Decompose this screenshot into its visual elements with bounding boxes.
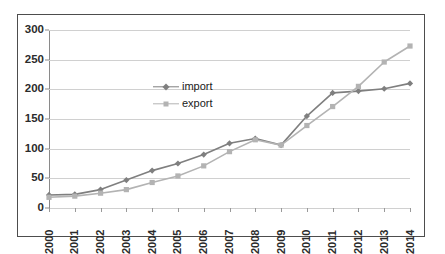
- legend-label-import: import: [182, 81, 213, 92]
- data-point-import-2006: [201, 152, 207, 158]
- x-tick-mark: [75, 208, 76, 212]
- plot-wrapper: 050100150200250300 200020012002200320042…: [18, 15, 424, 236]
- y-tick-label: 150: [25, 113, 44, 125]
- chart-frame: 050100150200250300 200020012002200320042…: [17, 14, 425, 237]
- x-tick-label: 2007: [224, 214, 235, 254]
- data-point-export-2014: [407, 43, 412, 48]
- data-point-export-2010: [304, 123, 309, 128]
- x-tick-mark: [178, 208, 179, 212]
- x-tick-mark: [410, 208, 411, 212]
- data-point-import-2007: [226, 140, 232, 146]
- data-point-export-2007: [227, 149, 232, 154]
- legend-item-import: import: [153, 78, 213, 95]
- data-point-import-2014: [407, 80, 413, 86]
- data-point-export-2006: [201, 163, 206, 168]
- x-tick-label: 2011: [327, 214, 338, 254]
- chart-legend: import export: [153, 78, 213, 112]
- x-tick-label: 2006: [198, 214, 209, 254]
- x-tick-mark: [358, 208, 359, 212]
- data-point-import-2004: [149, 168, 155, 174]
- x-tick-mark: [281, 208, 282, 212]
- x-tick-label: 2014: [405, 214, 416, 254]
- x-tick-mark: [126, 208, 127, 212]
- x-tick-mark: [255, 208, 256, 212]
- x-tick-label: 2005: [172, 214, 183, 254]
- x-tick-label: 2010: [301, 214, 312, 254]
- series-line-export: [49, 46, 410, 197]
- x-tick-label-holder: 2014: [390, 214, 430, 254]
- data-point-export-2008: [253, 137, 258, 142]
- y-tick-label: 50: [31, 173, 44, 185]
- legend-marker-export: [153, 99, 179, 109]
- data-point-export-2001: [72, 194, 77, 199]
- data-point-import-2005: [175, 160, 181, 166]
- y-tick-label: 300: [25, 24, 44, 36]
- legend-item-export: export: [153, 95, 213, 112]
- x-tick-label: 2004: [147, 214, 158, 254]
- x-tick-mark: [307, 208, 308, 212]
- data-point-export-2000: [46, 195, 51, 200]
- data-point-export-2005: [175, 173, 180, 178]
- x-tick-label: 2012: [353, 214, 364, 254]
- x-tick-label: 2013: [379, 214, 390, 254]
- data-point-export-2009: [278, 143, 283, 148]
- x-tick-mark: [101, 208, 102, 212]
- x-tick-label: 2003: [121, 214, 132, 254]
- x-tick-mark: [49, 208, 50, 212]
- y-tick-label: 0: [38, 202, 44, 214]
- legend-marker-import: [153, 82, 179, 92]
- x-tick-label: 2000: [44, 214, 55, 254]
- data-point-import-2003: [123, 177, 129, 183]
- x-tick-mark: [152, 208, 153, 212]
- legend-label-export: export: [182, 98, 213, 109]
- data-point-export-2013: [382, 59, 387, 64]
- x-tick-mark: [230, 208, 231, 212]
- data-point-import-2013: [381, 86, 387, 92]
- y-tick-label: 200: [25, 84, 44, 96]
- plot-area: 050100150200250300 200020012002200320042…: [49, 30, 410, 208]
- x-tick-label: 2008: [250, 214, 261, 254]
- series-export: [46, 43, 412, 200]
- data-point-export-2011: [330, 104, 335, 109]
- data-point-export-2003: [124, 187, 129, 192]
- y-tick-label: 250: [25, 54, 44, 66]
- series-layer: [49, 30, 410, 208]
- data-point-export-2012: [356, 84, 361, 89]
- y-tick-label: 100: [25, 143, 44, 155]
- series-line-import: [49, 83, 410, 195]
- x-tick-mark: [204, 208, 205, 212]
- series-import: [46, 80, 413, 198]
- x-tick-mark: [384, 208, 385, 212]
- x-tick-mark: [333, 208, 334, 212]
- data-point-export-2004: [150, 180, 155, 185]
- x-tick-label: 2002: [95, 214, 106, 254]
- x-tick-label: 2009: [276, 214, 287, 254]
- x-tick-label: 2001: [69, 214, 80, 254]
- data-point-export-2002: [98, 191, 103, 196]
